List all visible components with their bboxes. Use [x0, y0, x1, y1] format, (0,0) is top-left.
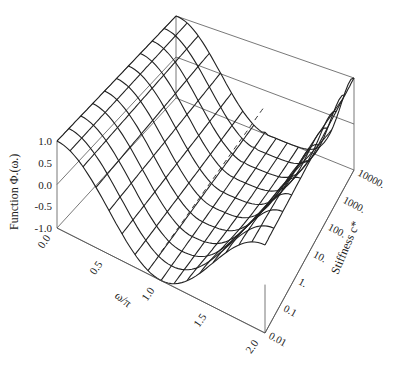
x-tick-label: 2.0	[243, 337, 261, 356]
surface-wireframe	[57, 16, 354, 284]
z-tick-label: 0.0	[38, 179, 52, 191]
z-axis-label: Function Φ.(ω.)	[7, 154, 21, 230]
x-tick-label: 0.5	[87, 258, 105, 277]
x-tick-label: 1.0	[139, 284, 157, 303]
surface-c-line	[117, 79, 310, 218]
y-tick-label: 1000.	[341, 194, 367, 215]
z-tick-label: -0.5	[35, 200, 53, 212]
surface-omega-line	[57, 16, 176, 141]
bounding-box-back	[57, 16, 354, 333]
y-tick-label: 0.1	[282, 303, 299, 319]
surface-omega-line	[213, 149, 310, 263]
z-axis-ticks: -1.0-0.50.00.51.0	[35, 135, 53, 234]
surface-omega-line	[135, 111, 243, 255]
surface-c-line	[57, 141, 265, 284]
x-tick-label: 0.0	[35, 232, 53, 251]
surface-omega-line	[265, 78, 354, 245]
surface-omega-line	[252, 99, 343, 242]
y-tick-label: 0.01	[267, 330, 288, 348]
z-tick-label: -1.0	[35, 222, 53, 234]
surface-omega-line	[83, 36, 198, 167]
y-tick-label: 10.	[312, 249, 329, 265]
surface-omega-line	[96, 53, 209, 187]
surface-omega-line	[187, 143, 287, 281]
y-tick-label: 10000.	[356, 167, 387, 190]
surface-c-line	[164, 29, 345, 164]
x-tick-label: 1.5	[191, 311, 209, 330]
bounding-box-front	[57, 170, 354, 333]
surface-c-line	[128, 66, 318, 205]
x-axis-label: ω/π	[112, 288, 134, 310]
surface-omega-line	[122, 93, 232, 234]
z-tick-label: 1.0	[38, 135, 52, 147]
surface-omega-line	[70, 23, 187, 151]
y-axis-ticks: 0.010.11.10.100.1000.10000.	[267, 167, 387, 348]
surface-omega-line	[109, 73, 221, 211]
surface-c-line	[152, 41, 336, 177]
y-tick-label: 1.	[297, 276, 309, 289]
z-tick-label: 0.5	[38, 157, 52, 169]
surface-plot: -1.0-0.50.00.51.0 0.00.51.01.52.0 0.010.…	[0, 0, 400, 372]
surface-c-line	[69, 129, 274, 270]
